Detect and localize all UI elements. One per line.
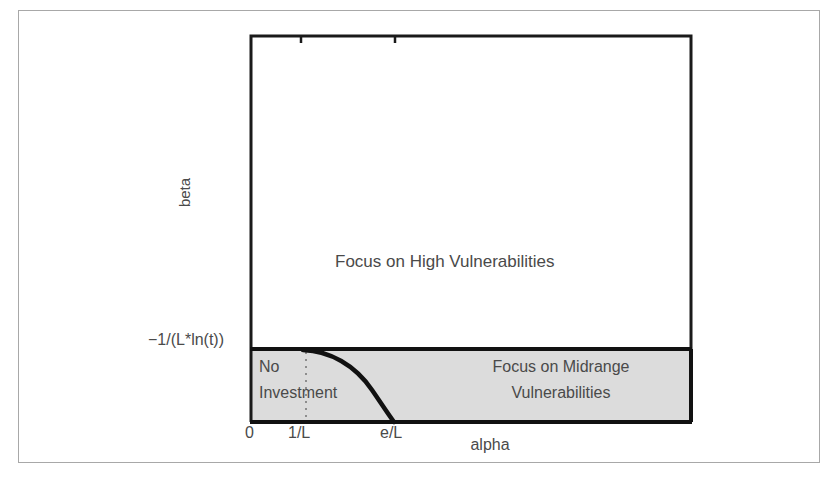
figure-container: beta alpha −1/(L*ln(t)) 0 1/L e/L Focus … bbox=[0, 0, 838, 478]
region-label-midrange-line1: Focus on Midrange bbox=[466, 354, 656, 380]
region-label-midrange-line2: Vulnerabilities bbox=[466, 380, 656, 406]
x-axis-title: alpha bbox=[440, 436, 540, 454]
x-tick-label-zero: 0 bbox=[245, 424, 254, 442]
region-label-midrange-vulnerabilities: Focus on Midrange Vulnerabilities bbox=[466, 354, 656, 406]
y-axis-title: beta bbox=[176, 148, 193, 238]
x-tick-label-one-over-L: 1/L bbox=[288, 424, 310, 442]
region-label-no-investment-line2: Investment bbox=[259, 380, 354, 406]
region-label-no-investment-line1: No bbox=[259, 354, 354, 380]
y-tick-label-threshold: −1/(L*ln(t)) bbox=[148, 331, 224, 349]
region-label-no-investment: No Investment bbox=[259, 354, 354, 406]
x-tick-label-e-over-L: e/L bbox=[380, 424, 402, 442]
chart-canvas bbox=[0, 0, 838, 478]
region-label-high-vulnerabilities: Focus on High Vulnerabilities bbox=[335, 252, 555, 272]
